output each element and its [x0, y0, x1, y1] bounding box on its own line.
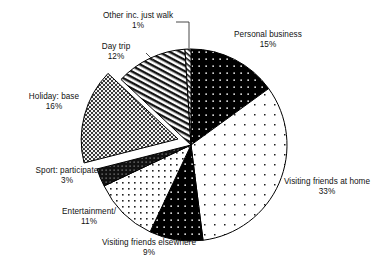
- slice-label-personal-business: Personal business 15%: [216, 30, 320, 51]
- slice-label-sport-participate: Sport: participate 3%: [17, 166, 117, 187]
- slice-label-other-name: Other inc. just walk: [103, 11, 173, 20]
- slice-label-visiting-friends-at-home-name: Visiting friends at home: [284, 177, 370, 186]
- slice-label-other-pct: 1%: [84, 21, 192, 31]
- slice-label-day-trip-name: Day trip: [102, 42, 131, 51]
- slice-label-holiday-base: Holiday: base 16%: [11, 92, 97, 113]
- slice-label-day-trip-pct: 12%: [86, 52, 146, 62]
- slice-label-visiting-friends-elsewhere-name: Visiting friends elsewhere: [102, 238, 196, 247]
- slice-label-other: Other inc. just walk 1%: [84, 11, 192, 32]
- slice-label-entertainment: Entertainment/ 11%: [41, 207, 137, 228]
- slice-label-personal-business-name: Personal business: [234, 30, 302, 39]
- slice-label-personal-business-pct: 15%: [216, 40, 320, 50]
- slice-label-entertainment-pct: 11%: [41, 217, 137, 227]
- slice-label-visiting-friends-at-home: Visiting friends at home 33%: [269, 177, 385, 198]
- slice-label-holiday-base-name: Holiday: base: [29, 92, 79, 101]
- slice-label-visiting-friends-elsewhere-pct: 9%: [87, 248, 211, 258]
- pie-chart-canvas: [0, 0, 387, 273]
- slice-label-sport-participate-pct: 3%: [17, 176, 117, 186]
- pie-chart: Other inc. just walk 1% Personal busines…: [0, 0, 387, 273]
- slice-label-day-trip: Day trip 12%: [86, 42, 146, 63]
- slice-label-holiday-base-pct: 16%: [11, 102, 97, 112]
- slice-label-visiting-friends-at-home-pct: 33%: [269, 187, 385, 197]
- slice-label-sport-participate-name: Sport: participate: [36, 166, 99, 175]
- slice-label-entertainment-name: Entertainment/: [62, 207, 116, 216]
- slice-label-visiting-friends-elsewhere: Visiting friends elsewhere 9%: [87, 238, 211, 259]
